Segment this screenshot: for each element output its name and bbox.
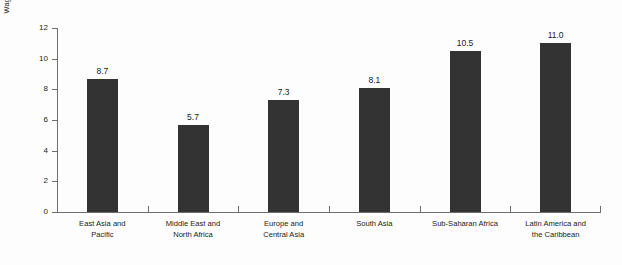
bar-value-label: 8.1	[344, 75, 404, 85]
x-axis-category-label: Europe and Central Asia	[236, 219, 332, 240]
bar	[540, 43, 571, 212]
x-axis-endcap-tick	[600, 206, 601, 213]
y-axis-tick-label: 6	[2, 116, 48, 124]
bar	[268, 100, 299, 212]
bar-value-label: 7.3	[254, 87, 314, 97]
x-axis-category-label: Middle East and North Africa	[145, 219, 241, 240]
bar-chart: Wage increase per additional year (%) 02…	[0, 0, 622, 265]
y-axis-tick-label-wrap: 6	[0, 116, 48, 124]
x-axis-category-label: Latin America and the Caribbean	[508, 219, 604, 240]
x-axis-category-label: South Asia	[326, 219, 422, 230]
x-axis-separator-tick	[148, 206, 149, 213]
y-axis-title: Wage increase per additional year (%)	[0, 0, 14, 46]
y-axis-tick-label-wrap: 10	[0, 55, 48, 63]
y-axis-tick-label: 10	[2, 55, 48, 63]
y-axis-tick-label-wrap: 0	[0, 208, 48, 216]
y-axis-tick-label-wrap: 4	[0, 147, 48, 155]
y-axis-tick-label: 8	[2, 85, 48, 93]
bar-value-label: 11.0	[526, 30, 586, 40]
y-axis-tick-label: 4	[2, 147, 48, 155]
y-axis-line	[57, 28, 58, 213]
x-axis-separator-tick	[510, 206, 511, 213]
bar-value-label: 5.7	[163, 112, 223, 122]
y-axis-tick-label-wrap: 2	[0, 177, 48, 185]
y-axis-tick-label-wrap: 8	[0, 85, 48, 93]
bar	[450, 51, 481, 212]
bar	[359, 88, 390, 212]
bar-value-label: 10.5	[435, 38, 495, 48]
y-axis-tick-label: 0	[2, 208, 48, 216]
x-axis-separator-tick	[238, 206, 239, 213]
x-axis-separator-tick	[329, 206, 330, 213]
bar	[87, 79, 118, 212]
x-axis-category-label: East Asia and Pacific	[54, 219, 150, 240]
y-axis-tick-label-wrap: 12	[0, 24, 48, 32]
y-axis-tick-label: 12	[2, 24, 48, 32]
bar	[178, 125, 209, 212]
bar-value-label: 8.7	[72, 66, 132, 76]
x-axis-separator-tick	[420, 206, 421, 213]
y-axis-tick-label: 2	[2, 177, 48, 185]
x-axis-category-label: Sub-Saharan Africa	[417, 219, 513, 230]
